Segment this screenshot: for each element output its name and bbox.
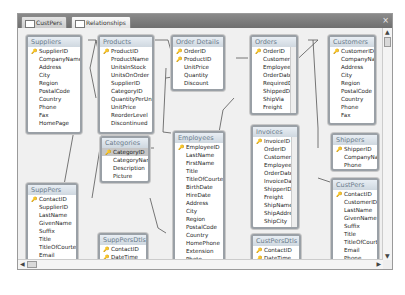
table-title[interactable]: Categories: [102, 138, 148, 148]
field-row[interactable]: ShipperID: [333, 145, 377, 153]
field-row[interactable]: Extension: [175, 247, 223, 255]
field-row[interactable]: CustomerID: [333, 198, 377, 206]
field-row[interactable]: HireDate: [175, 191, 223, 199]
field-row[interactable]: Phone: [28, 103, 80, 111]
field-row[interactable]: Fax: [28, 111, 80, 119]
table-title[interactable]: SuppPers: [28, 185, 76, 195]
field-row[interactable]: Description: [102, 164, 148, 172]
field-row[interactable]: PostalCode: [28, 87, 80, 95]
field-row[interactable]: Address: [28, 63, 80, 71]
field-row[interactable]: UnitsOnOrder: [100, 71, 152, 79]
field-row[interactable]: CategoryID: [100, 87, 152, 95]
field-row[interactable]: Region: [175, 215, 223, 223]
field-row[interactable]: Country: [28, 95, 80, 103]
field-row[interactable]: Email: [333, 246, 377, 254]
field-row[interactable]: Address: [175, 199, 223, 207]
table-title[interactable]: Order Details: [173, 37, 223, 47]
table-supppersdtls[interactable]: SuppPersDtls ContactID DateTime Type Des…: [98, 233, 148, 260]
field-row[interactable]: ContactID: [333, 190, 377, 198]
field-row[interactable]: Suffix: [28, 227, 76, 235]
field-row[interactable]: UnitPrice: [173, 63, 223, 71]
field-row[interactable]: ProductID: [173, 55, 223, 63]
field-row[interactable]: PostalCode: [330, 87, 374, 95]
table-scrollbar[interactable]: [291, 137, 297, 227]
field-row[interactable]: TitleOfCourtesy: [175, 175, 223, 183]
field-row[interactable]: Title: [175, 167, 223, 175]
field-row[interactable]: City: [330, 71, 374, 79]
vertical-scrollbar[interactable]: ▲ ▼: [382, 28, 392, 260]
field-row[interactable]: Title: [28, 235, 76, 243]
table-title[interactable]: Invoices: [253, 127, 297, 137]
field-row[interactable]: Country: [330, 95, 374, 103]
scroll-right-icon[interactable]: ▶: [376, 260, 381, 268]
table-order-details[interactable]: Order Details OrderID ProductID UnitPric…: [171, 35, 225, 91]
field-row[interactable]: ReorderLevel: [100, 111, 152, 119]
field-row[interactable]: ContactID: [100, 245, 146, 253]
field-row[interactable]: City: [28, 71, 80, 79]
close-icon[interactable]: ×: [382, 15, 389, 27]
table-custpers[interactable]: CustPers ContactID CustomerID LastName G…: [331, 178, 379, 260]
table-title[interactable]: Employees: [175, 133, 223, 143]
field-row[interactable]: ContactID: [28, 195, 76, 203]
field-row[interactable]: FirstName: [175, 159, 223, 167]
field-row[interactable]: GivenName: [333, 214, 377, 222]
table-suppliers[interactable]: Suppliers SupplierID CompanyName Address…: [26, 35, 82, 134]
field-row[interactable]: CategoryID: [102, 148, 148, 156]
scroll-down-icon[interactable]: ▼: [385, 252, 390, 260]
field-row[interactable]: UnitPrice: [100, 103, 152, 111]
table-title[interactable]: CustPers: [333, 180, 377, 190]
table-title[interactable]: Suppliers: [28, 37, 80, 47]
field-row[interactable]: EmployeeID: [175, 143, 223, 151]
field-row[interactable]: SupplierID: [28, 203, 76, 211]
field-row[interactable]: Suffix: [333, 222, 377, 230]
table-scrollbar[interactable]: [290, 47, 296, 113]
field-row[interactable]: GivenName: [28, 219, 76, 227]
field-row[interactable]: SupplierID: [28, 47, 80, 55]
field-row[interactable]: HomePage: [28, 119, 80, 127]
horizontal-scrollbar[interactable]: ◀ ▶: [18, 259, 383, 269]
scroll-thumb[interactable]: [27, 261, 37, 268]
field-row[interactable]: Discontinued: [100, 119, 152, 127]
field-row[interactable]: City: [175, 207, 223, 215]
field-row[interactable]: BirthDate: [175, 183, 223, 191]
table-shippers[interactable]: Shippers ShipperID CompanyName Phone: [331, 133, 379, 171]
table-supppers[interactable]: SuppPers ContactID SupplierID LastName G…: [26, 183, 78, 260]
table-title[interactable]: Orders: [252, 37, 296, 47]
field-row[interactable]: ProductID: [100, 47, 152, 55]
field-row[interactable]: Region: [28, 79, 80, 87]
scroll-thumb[interactable]: [384, 37, 391, 47]
field-row[interactable]: Title: [333, 230, 377, 238]
scroll-left-icon[interactable]: ◀: [20, 260, 25, 268]
field-row[interactable]: Address: [330, 63, 374, 71]
table-title[interactable]: SuppPersDtls: [100, 235, 146, 245]
field-row[interactable]: QuantityPerUnit: [100, 95, 152, 103]
table-custpersdtls[interactable]: CustPersDtls ContactID DateTime Type Des…: [251, 234, 301, 260]
field-row[interactable]: SupplierID: [100, 79, 152, 87]
table-customers[interactable]: Customers CustomerID CompanyName Address…: [328, 35, 376, 125]
field-row[interactable]: TitleOfCourtesy: [28, 243, 76, 251]
field-row[interactable]: Fax: [330, 111, 374, 119]
field-row[interactable]: Email: [28, 251, 76, 259]
field-row[interactable]: LastName: [28, 211, 76, 219]
field-row[interactable]: PostalCode: [175, 223, 223, 231]
table-title[interactable]: Shippers: [333, 135, 377, 145]
table-title[interactable]: Products: [100, 37, 152, 47]
table-invoices[interactable]: Invoices InvoiceID OrderID CustomerID Em…: [251, 125, 299, 229]
scroll-up-icon[interactable]: ▲: [385, 28, 390, 36]
table-categories[interactable]: Categories CategoryID CategoryName Descr…: [100, 136, 150, 183]
field-row[interactable]: Quantity: [173, 71, 223, 79]
field-row[interactable]: ProductName: [100, 55, 152, 63]
field-row[interactable]: LastName: [175, 151, 223, 159]
field-row[interactable]: OrderID: [173, 47, 223, 55]
field-row[interactable]: UnitsInStock: [100, 63, 152, 71]
field-row[interactable]: Phone: [330, 103, 374, 111]
field-row[interactable]: ContactID: [253, 246, 299, 254]
field-row[interactable]: CompanyName: [28, 55, 80, 63]
field-row[interactable]: Phone: [333, 161, 377, 169]
field-row[interactable]: CustomerID: [330, 47, 374, 55]
field-row[interactable]: Region: [330, 79, 374, 87]
table-employees[interactable]: Employees EmployeeID LastName FirstName …: [173, 131, 225, 260]
field-row[interactable]: CompanyName: [333, 153, 377, 161]
field-row[interactable]: TitleOfCourtesy: [333, 238, 377, 246]
table-orders[interactable]: Orders OrderID CustomerID EmployeeID Ord…: [250, 35, 298, 115]
